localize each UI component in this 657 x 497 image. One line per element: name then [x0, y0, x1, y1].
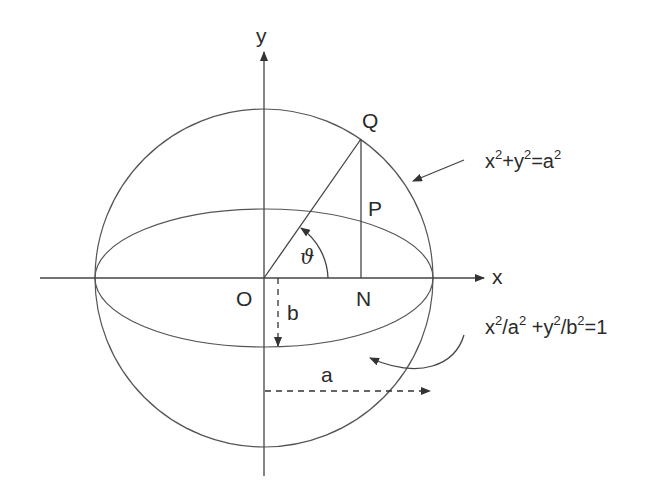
- circle-pointer-arrow: [413, 160, 464, 181]
- y-axis-label: y: [256, 24, 267, 47]
- point-N-label: N: [356, 287, 371, 310]
- point-Q-label: Q: [362, 109, 378, 132]
- angle-theta-label: ϑ: [300, 245, 314, 269]
- ellipse-circle-diagram: y x O Q P N ϑ b a x2+y2=a2 x2/a2 +y2/b2=…: [0, 0, 657, 497]
- semi-minor-label: b: [287, 301, 299, 324]
- origin-label: O: [236, 287, 252, 310]
- point-P-label: P: [368, 197, 382, 220]
- semi-major-label: a: [321, 363, 333, 386]
- x-axis-label: x: [492, 265, 503, 288]
- ellipse-equation: x2/a2 +y2/b2=1: [485, 313, 607, 338]
- ellipse-pointer-arrow: [370, 335, 464, 368]
- circle-equation: x2+y2=a2: [485, 147, 561, 172]
